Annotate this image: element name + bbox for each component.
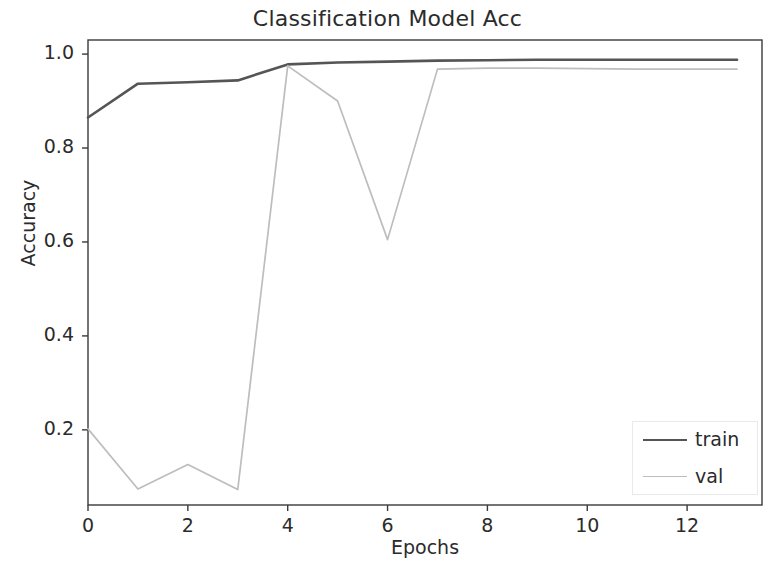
x-axis-label: Epochs [88,536,762,558]
x-tick-label: 6 [363,514,413,536]
legend-label-train: train [695,428,739,450]
x-tick-label: 4 [263,514,313,536]
legend-item-val: val [633,459,759,496]
legend-swatch-train [643,439,687,441]
y-tick-label: 0.2 [18,417,74,439]
x-tick-label: 10 [562,514,612,536]
legend-item-train: train [633,422,759,459]
x-tick-label: 12 [662,514,712,536]
y-tick-label: 0.4 [18,323,74,345]
y-tick-label: 1.0 [18,41,74,63]
y-tick-label: 0.8 [18,135,74,157]
y-axis-label: Accuracy [17,143,39,303]
legend-label-val: val [695,465,723,487]
legend: train val [632,421,758,495]
x-tick-label: 2 [163,514,213,536]
chart-figure: Classification Model Acc Accuracy Epochs… [0,0,775,570]
legend-swatch-val [643,476,687,477]
x-tick-label: 8 [462,514,512,536]
x-tick-label: 0 [63,514,113,536]
y-tick-label: 0.6 [18,229,74,251]
